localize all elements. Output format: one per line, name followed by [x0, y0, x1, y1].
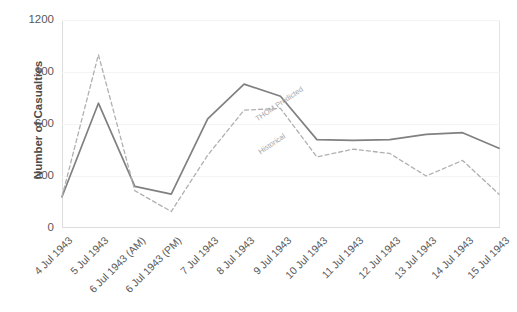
y-tick-label-900: 900	[8, 66, 54, 78]
plot-area: THOM Predicted Historical	[62, 20, 500, 228]
y-tick-label-0: 0	[8, 222, 54, 234]
y-tick-label-600: 600	[8, 118, 54, 130]
x-axis-tick-labels: 4 Jul 19435 Jul 19436 Jul 1943 (AM)6 Jul…	[62, 228, 500, 312]
casualties-line-chart: Number of Casualties 12009006003000 THOM…	[0, 0, 517, 312]
y-tick-label-1200: 1200	[8, 14, 54, 26]
series-lines	[62, 20, 500, 228]
y-tick-label-300: 300	[8, 170, 54, 182]
